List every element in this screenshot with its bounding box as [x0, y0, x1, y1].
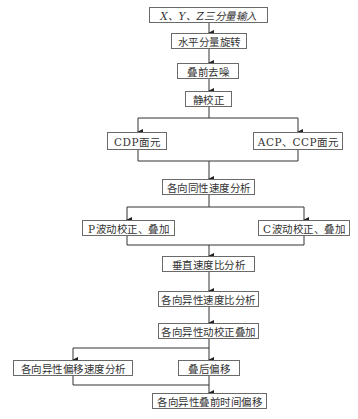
- node-post-stack-migration: 叠后偏移: [178, 360, 240, 376]
- node-anisotropic-prestack-time-migration: 各向异性叠前时间偏移: [152, 393, 267, 409]
- node-label: 各向异性动校正叠加: [161, 324, 256, 339]
- node-label: CDP面元: [114, 134, 160, 149]
- node-label: 垂直速度比分析: [172, 257, 246, 272]
- node-xyz-input: X、Y、Z三分量输入: [149, 7, 268, 23]
- node-label: C波动校正、叠加: [263, 221, 345, 236]
- node-isotropic-velocity-analysis: 各向同性速度分析: [162, 179, 255, 195]
- node-label: 静校正: [193, 92, 225, 107]
- node-label: 叠前去噪: [187, 64, 229, 79]
- node-prestack-denoise: 叠前去噪: [177, 63, 239, 79]
- node-label: 各向同性速度分析: [167, 180, 251, 195]
- node-p-wave-nmo-stack: P波动校正、叠加: [82, 220, 175, 236]
- node-label: 各向异性偏移速度分析: [21, 361, 126, 376]
- flowchart: X、Y、Z三分量输入 水平分量旋转 叠前去噪 静校正 CDP面元 ACP、CCP…: [0, 0, 358, 419]
- node-horizontal-rotation: 水平分量旋转: [171, 33, 247, 49]
- node-label: P波动校正、叠加: [88, 221, 169, 236]
- node-anisotropic-velocity-ratio: 各向异性速度比分析: [158, 291, 259, 307]
- node-label: 各向异性速度比分析: [161, 292, 256, 307]
- node-anisotropic-nmo-stack: 各向异性动校正叠加: [158, 323, 259, 339]
- node-static-correction: 静校正: [185, 91, 232, 107]
- node-acp-ccp-bin: ACP、CCP面元: [253, 132, 343, 150]
- node-label: 各向异性叠前时间偏移: [157, 394, 262, 409]
- node-c-wave-nmo-stack: C波动校正、叠加: [258, 220, 350, 236]
- node-label: ACP、CCP面元: [258, 134, 338, 149]
- node-anisotropic-migration-velocity: 各向异性偏移速度分析: [13, 360, 133, 376]
- node-label: 叠后偏移: [188, 361, 230, 376]
- node-label: 水平分量旋转: [178, 34, 241, 49]
- node-label: X、Y、Z三分量输入: [160, 8, 257, 23]
- node-cdp-bin: CDP面元: [107, 132, 167, 150]
- node-vertical-velocity-ratio: 垂直速度比分析: [162, 256, 255, 272]
